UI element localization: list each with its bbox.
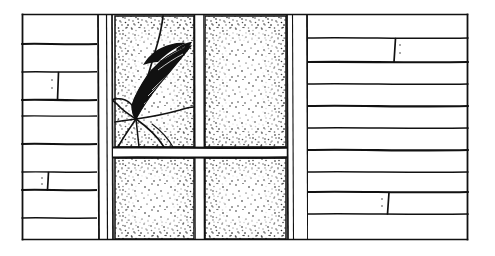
casing-right-inner-edge (287, 14, 288, 240)
siding-left (22, 14, 98, 240)
line-drawing-svg (0, 0, 495, 256)
pane-bottom-left-edge-stipple (115, 158, 194, 239)
siding-left-field (22, 14, 98, 240)
pane-bottom-right (205, 158, 286, 239)
pane-bottom-left (115, 158, 194, 239)
mullion-horizontal (113, 147, 287, 158)
mullion-vertical (194, 14, 205, 240)
illustration-canvas: Bird crashing through window pane pen-an… (0, 0, 495, 256)
window-casing-left (97, 14, 113, 240)
pane-top-right (205, 16, 286, 147)
window-casing-right (287, 14, 308, 240)
mullion-vertical-right-edge (204, 14, 205, 240)
siding-right (308, 14, 468, 240)
casing-right-outer-edge (307, 14, 308, 240)
pane-bottom-right-edge-stipple (205, 158, 286, 239)
window-sash (113, 14, 287, 240)
casing-right-face (287, 14, 308, 240)
mullion-vertical-left-edge (195, 14, 196, 240)
pane-top-right-edge-stipple (205, 16, 286, 147)
casing-left-inner-edge (112, 14, 113, 240)
casing-left-outer-edge (98, 14, 99, 240)
